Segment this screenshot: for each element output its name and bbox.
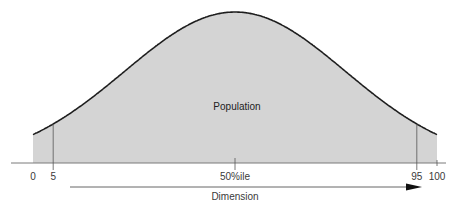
tick-label-100: 100 xyxy=(429,171,446,182)
tick-label-5: 5 xyxy=(50,171,56,182)
normal-distribution-chart: 0550%ile95100 Population Dimension xyxy=(0,0,457,208)
population-area xyxy=(33,12,437,163)
tick-label-0: 0 xyxy=(30,171,36,182)
tick-label-50: 50%ile xyxy=(220,171,250,182)
population-label: Population xyxy=(213,101,260,112)
tick-label-95: 95 xyxy=(411,171,423,182)
dimension-arrow-head xyxy=(406,184,422,191)
dimension-axis-label: Dimension xyxy=(211,191,258,202)
